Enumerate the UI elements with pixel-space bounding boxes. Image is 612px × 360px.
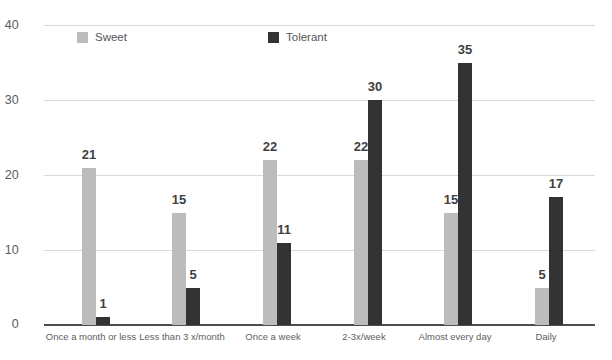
bar-tolerant-5[interactable]: 17	[549, 25, 563, 325]
bar-rect-tolerant-2	[277, 243, 291, 325]
legend-label-sweet: Sweet	[95, 31, 127, 43]
legend-swatch-tolerant-icon	[268, 32, 279, 43]
gridline-40	[44, 25, 595, 26]
chart-legend: Sweet Tolerant	[0, 31, 612, 47]
x-axis-line	[44, 324, 595, 326]
legend-label-tolerant: Tolerant	[286, 31, 327, 43]
x-tick-label-5: Daily	[476, 331, 612, 342]
y-tick-0: 0	[0, 317, 19, 331]
bar-sweet-5[interactable]: 5	[535, 25, 549, 325]
bar-tolerant-1[interactable]: 5	[186, 25, 200, 325]
bar-rect-tolerant-5	[549, 197, 563, 325]
bar-value-tolerant-1: 5	[173, 267, 213, 282]
legend-item-sweet[interactable]: Sweet	[77, 31, 127, 43]
bar-tolerant-3[interactable]: 30	[368, 25, 382, 325]
plot-area: 40 30 20 10 0 21 1 15	[44, 25, 595, 325]
y-tick-30: 30	[0, 93, 19, 107]
bar-sweet-4[interactable]: 15	[444, 25, 458, 325]
bar-value-tolerant-5: 17	[536, 176, 576, 191]
bar-rect-sweet-4	[444, 213, 458, 325]
y-tick-10: 10	[0, 243, 19, 257]
bar-value-tolerant-0: 1	[83, 296, 123, 311]
bar-tolerant-2[interactable]: 11	[277, 25, 291, 325]
bar-sweet-2[interactable]: 22	[263, 25, 277, 325]
gridline-20	[44, 175, 595, 176]
bar-rect-tolerant-0	[96, 317, 110, 325]
bar-value-tolerant-2: 11	[264, 222, 304, 237]
y-tick-20: 20	[0, 168, 19, 182]
bar-value-tolerant-3: 30	[355, 79, 395, 94]
legend-swatch-sweet-icon	[77, 32, 88, 43]
bar-chart: 40 30 20 10 0 21 1 15	[0, 0, 612, 360]
bar-tolerant-0[interactable]: 1	[96, 25, 110, 325]
gridline-30	[44, 100, 595, 101]
bar-rect-tolerant-3	[368, 100, 382, 325]
bar-rect-sweet-3	[354, 160, 368, 325]
y-tick-40: 40	[0, 18, 19, 32]
bar-rect-tolerant-1	[186, 288, 200, 325]
bar-sweet-0[interactable]: 21	[82, 25, 96, 325]
bar-tolerant-4[interactable]: 35	[458, 25, 472, 325]
gridline-10	[44, 250, 595, 251]
bar-rect-sweet-2	[263, 160, 277, 325]
bar-rect-tolerant-4	[458, 63, 472, 325]
legend-item-tolerant[interactable]: Tolerant	[268, 31, 327, 43]
bar-sweet-3[interactable]: 22	[354, 25, 368, 325]
bar-rect-sweet-5	[535, 288, 549, 325]
